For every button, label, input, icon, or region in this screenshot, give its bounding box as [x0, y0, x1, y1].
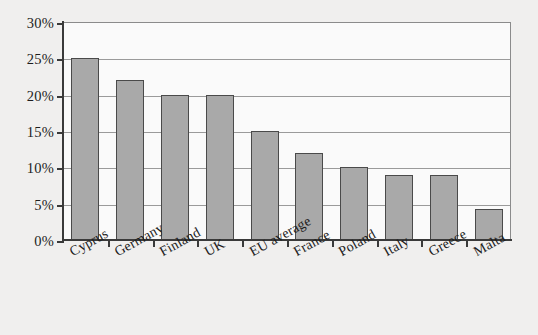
gridline — [63, 59, 510, 60]
y-tick-label: 0% — [34, 233, 54, 250]
y-axis-line — [62, 21, 64, 241]
bar — [251, 131, 279, 240]
x-tick-mark — [421, 240, 423, 247]
y-tick-label: 25% — [27, 51, 54, 68]
y-tick-label: 10% — [27, 160, 54, 177]
bar — [206, 95, 234, 240]
bar — [116, 80, 144, 240]
y-tick-mark — [57, 241, 64, 243]
plot-area: 0%5%10%15%20%25%30% — [63, 22, 511, 240]
bar-chart-figure: 0%5%10%15%20%25%30% CyprusGermanyFinland… — [0, 0, 538, 335]
y-tick-label: 20% — [27, 87, 54, 104]
bar — [71, 58, 99, 240]
x-tick-mark — [242, 240, 244, 247]
bar — [161, 95, 189, 240]
y-tick-label: 15% — [27, 124, 54, 141]
y-tick-label: 30% — [27, 15, 54, 32]
bar — [385, 175, 413, 240]
y-tick-label: 5% — [34, 196, 54, 213]
